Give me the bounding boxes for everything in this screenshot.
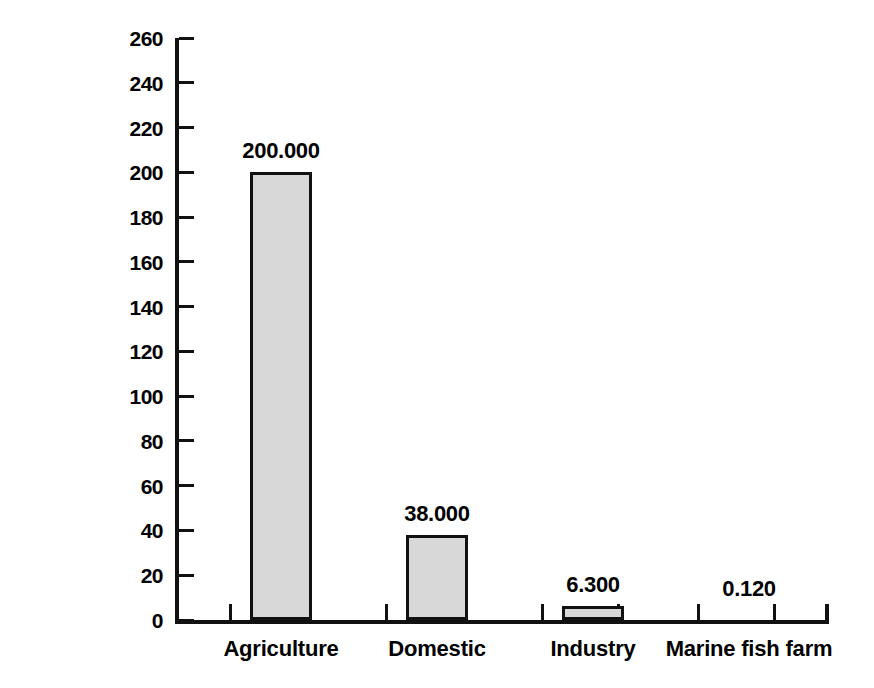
y-axis-tick [179, 37, 194, 40]
y-axis-tick [179, 619, 194, 622]
y-axis-tick [179, 81, 194, 84]
y-axis-tick-label: 140 [129, 297, 163, 318]
y-axis-tick-label: 260 [129, 28, 163, 49]
y-axis-tick-label: 60 [141, 476, 163, 497]
x-axis-tick [229, 604, 232, 621]
y-axis-tick [179, 574, 194, 577]
x-axis-tick [385, 604, 388, 621]
bar-value-label: 200.000 [201, 140, 361, 162]
bar-chart-figure: Nitrogen load tonnes N/Y (Thousands) 020… [0, 0, 874, 688]
x-axis-tick [541, 604, 544, 621]
y-axis-tick-label: 180 [129, 207, 163, 228]
bar-value-label: 6.300 [513, 574, 673, 596]
y-axis-tick [179, 484, 194, 487]
y-axis-tick-label: 20 [141, 565, 163, 586]
y-axis-tick-label: 80 [141, 431, 163, 452]
y-axis-tick [179, 171, 194, 174]
y-axis-tick-label: 240 [129, 73, 163, 94]
y-axis-tick-label: 100 [129, 386, 163, 407]
y-axis-tick [179, 216, 194, 219]
x-axis-category-label: Marine fish farm [639, 638, 859, 660]
y-axis-tick [179, 395, 194, 398]
y-axis-tick [179, 305, 194, 308]
bar [250, 172, 312, 620]
bar [406, 535, 468, 620]
plot-area: 020406080100120140160180200220240260 200… [175, 38, 829, 620]
bar [562, 606, 624, 620]
x-axis-tick [773, 604, 776, 621]
bar-value-label: 38.000 [357, 503, 517, 525]
x-axis-line [175, 620, 829, 624]
x-axis-end-cap [825, 604, 829, 622]
x-axis-tick [697, 604, 700, 621]
y-axis-tick [179, 260, 194, 263]
y-axis-tick-label: 0 [152, 610, 163, 631]
y-axis-tick [179, 439, 194, 442]
y-axis-tick-label: 120 [129, 341, 163, 362]
y-axis-tick [179, 350, 194, 353]
y-axis-tick-label: 160 [129, 252, 163, 273]
y-axis-tick [179, 529, 194, 532]
bar-value-label: 0.120 [669, 578, 829, 600]
y-axis-tick-label: 200 [129, 162, 163, 183]
y-axis-tick [179, 126, 194, 129]
y-axis-tick-label: 220 [129, 118, 163, 139]
y-axis-tick-label: 40 [141, 520, 163, 541]
